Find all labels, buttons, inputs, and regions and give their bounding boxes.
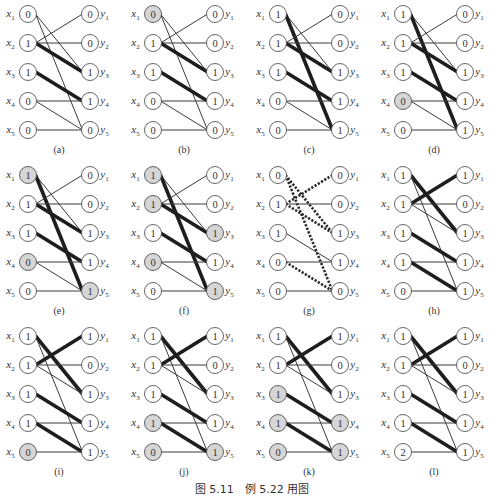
node-x2-value: 1 (25, 199, 30, 210)
node-y3-value: 1 (337, 389, 342, 400)
node-x2-value: 1 (275, 38, 280, 49)
label-y5: y5 (349, 284, 359, 299)
node-x4-value: 0 (275, 96, 280, 107)
node-x2-value: 1 (400, 38, 405, 49)
node-y3-value: 1 (337, 228, 342, 239)
matched-edge-x4-y5 (411, 423, 458, 452)
label-x2: x2 (5, 358, 15, 373)
label-y2: y2 (99, 197, 109, 212)
label-x4: x4 (255, 255, 265, 270)
matched-edge-x2-y1 (286, 336, 333, 365)
label-x5: x5 (255, 284, 265, 299)
label-x5: x5 (5, 445, 15, 460)
label-x3: x3 (130, 65, 140, 80)
node-y3-value: 1 (212, 67, 217, 78)
node-x4-value: 1 (400, 257, 405, 268)
graph-panel-f: 10x1y110x2y211x3y301x4y401x5y5(f) (130, 167, 234, 318)
label-x4: x4 (5, 416, 15, 431)
node-y4-value: 1 (87, 257, 92, 268)
panel-label: (j) (179, 466, 188, 478)
label-y1: y1 (224, 7, 234, 22)
graph-panel-a: 00x1y110x2y211x3y301x4y400x5y5(a) (5, 6, 109, 157)
node-y3-value: 1 (87, 67, 92, 78)
node-y5-value: 0 (212, 125, 217, 136)
edge-x1-y5 (161, 14, 208, 130)
node-x5-value: 2 (400, 447, 405, 458)
node-x5-value: 0 (25, 125, 30, 136)
label-y4: y4 (474, 255, 484, 270)
panel-label: (f) (179, 305, 189, 317)
node-x4-value: 0 (400, 96, 405, 107)
label-x1: x1 (5, 7, 15, 22)
edge-x2-y3 (36, 365, 83, 394)
label-x5: x5 (130, 445, 140, 460)
node-x4-value: 0 (25, 96, 30, 107)
matched-edge-x3-y4 (411, 233, 458, 262)
label-x4: x4 (380, 94, 390, 109)
label-y5: y5 (224, 445, 234, 460)
label-x3: x3 (130, 226, 140, 241)
label-y4: y4 (99, 94, 109, 109)
label-y4: y4 (349, 255, 359, 270)
node-x3-value: 1 (400, 67, 405, 78)
edge-x1-y5 (411, 175, 458, 291)
dotted-edge-x4-y5 (286, 262, 333, 291)
node-y5-value: 1 (462, 447, 467, 458)
matched-edge-x3-y4 (161, 72, 208, 101)
label-x5: x5 (380, 123, 390, 138)
node-x1-value: 1 (25, 331, 30, 342)
panel-label: (c) (303, 144, 314, 156)
node-y4-value: 1 (212, 418, 217, 429)
label-x5: x5 (5, 284, 15, 299)
matched-edge-x3-y4 (161, 394, 208, 423)
node-x5-value: 0 (150, 125, 155, 136)
label-x5: x5 (130, 123, 140, 138)
node-x1-value: 1 (275, 331, 280, 342)
edge-x4-y5 (36, 101, 83, 130)
label-x1: x1 (255, 7, 265, 22)
label-y2: y2 (474, 358, 484, 373)
label-x3: x3 (255, 387, 265, 402)
edge-x1-y5 (36, 336, 83, 452)
node-y3-value: 1 (462, 228, 467, 239)
edge-x2-y3 (286, 365, 333, 394)
label-x2: x2 (255, 358, 265, 373)
dotted-edge-x1-y5 (286, 175, 333, 291)
label-x3: x3 (380, 387, 390, 402)
node-y1-value: 0 (87, 170, 92, 181)
label-y4: y4 (99, 255, 109, 270)
matched-edge-x2-y1 (36, 336, 83, 365)
graph-panel-l: 11x1y110x2y211x3y311x4y421x5y5(l) (380, 328, 484, 479)
node-x2-value: 1 (150, 199, 155, 210)
node-y3-value: 1 (337, 67, 342, 78)
node-x1-value: 1 (150, 331, 155, 342)
node-x4-value: 1 (275, 418, 280, 429)
graph-panel-d: 10x1y110x2y211x3y301x4y401x5y5(d) (380, 6, 484, 157)
panel-label: (k) (303, 466, 315, 478)
label-x4: x4 (255, 416, 265, 431)
edge-x2-y3 (411, 204, 458, 233)
node-y4-value: 1 (87, 418, 92, 429)
node-x1-value: 1 (275, 9, 280, 20)
node-y4-value: 1 (337, 418, 342, 429)
node-x2-value: 1 (400, 360, 405, 371)
node-x1-value: 1 (400, 170, 405, 181)
label-y5: y5 (224, 123, 234, 138)
node-x1-value: 1 (150, 170, 155, 181)
edge-x1-y5 (161, 336, 208, 452)
graph-panel-h: 11x1y110x2y211x3y311x4y401x5y5(h) (380, 167, 484, 318)
node-x3-value: 1 (150, 228, 155, 239)
node-x3-value: 1 (275, 389, 280, 400)
label-y3: y3 (99, 387, 109, 402)
label-x1: x1 (380, 329, 390, 344)
label-x1: x1 (255, 168, 265, 183)
node-x5-value: 0 (275, 286, 280, 297)
label-x4: x4 (130, 255, 140, 270)
matched-edge-x4-y5 (411, 262, 458, 291)
label-y1: y1 (349, 168, 359, 183)
edge-x3-y4 (286, 233, 333, 262)
node-x3-value: 1 (275, 228, 280, 239)
label-x1: x1 (5, 329, 15, 344)
label-x1: x1 (5, 168, 15, 183)
